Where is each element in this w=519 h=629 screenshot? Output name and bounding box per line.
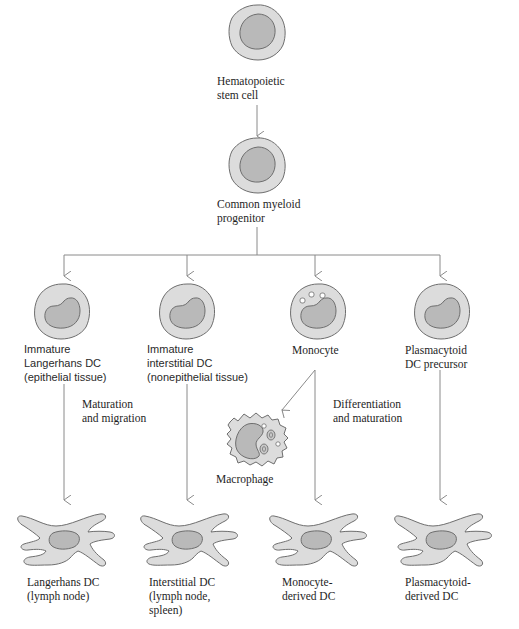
differentiation-maturation-line-2: and maturation — [333, 411, 402, 425]
monocyte-label-line-1: Monocyte — [292, 343, 339, 357]
imm-interstitial-label: Immature interstitial DC (nonepithelial … — [147, 342, 248, 384]
plasmacytoid-precursor-cell-icon — [415, 284, 470, 339]
plasmacytoid-dc-cell-icon — [395, 514, 492, 566]
plasmacytoid-dc-label-line-1: Plasmacytoid- — [405, 575, 471, 589]
arrow-monocyte-to-macrophage — [282, 370, 315, 410]
interstitial-dc-label-line-3: spleen) — [149, 603, 215, 617]
imm-interstitial-cell-icon — [160, 284, 215, 339]
imm-interstitial-label-line-2: interstitial DC — [147, 356, 248, 370]
macrophage-label: Macrophage — [216, 472, 273, 486]
hsc-label: Hematopoietic stem cell — [217, 74, 285, 102]
langerhans-dc-label-line-2: (lymph node) — [27, 589, 100, 603]
monocyte-dc-label: Monocyte- derived DC — [282, 575, 335, 603]
plasmacytoid-precursor-label-line-1: Plasmacytoid — [405, 343, 467, 357]
cmp-cell-icon — [229, 138, 285, 193]
maturation-migration-label: Maturation and migration — [82, 397, 146, 425]
cmp-label-line-1: Common myeloid — [217, 197, 300, 211]
interstitial-dc-label-line-1: Interstitial DC — [149, 575, 215, 589]
imm-interstitial-label-line-1: Immature — [147, 342, 248, 356]
imm-langerhans-label: Immature Langerhans DC (epithelial tissu… — [24, 342, 107, 384]
differentiation-maturation-line-1: Differentiation — [333, 397, 402, 411]
monocyte-dc-label-line-2: derived DC — [282, 589, 335, 603]
hsc-label-line-1: Hematopoietic — [217, 74, 285, 88]
macrophage-cell-icon — [227, 413, 288, 466]
hsc-label-line-2: stem cell — [217, 88, 285, 102]
maturation-migration-line-1: Maturation — [82, 397, 146, 411]
monocyte-label: Monocyte — [292, 343, 339, 357]
plasmacytoid-precursor-label: Plasmacytoid DC precursor — [405, 343, 467, 371]
imm-langerhans-cell-icon — [35, 284, 90, 339]
cmp-label-line-2: progenitor — [217, 211, 300, 225]
imm-langerhans-label-line-2: Langerhans DC — [24, 356, 107, 370]
imm-langerhans-label-line-1: Immature — [24, 342, 107, 356]
interstitial-dc-label-line-2: (lymph node, — [149, 589, 215, 603]
maturation-migration-line-2: and migration — [82, 411, 146, 425]
cmp-label: Common myeloid progenitor — [217, 197, 300, 225]
langerhans-dc-cell-icon — [18, 514, 115, 566]
plasmacytoid-dc-label: Plasmacytoid- derived DC — [405, 575, 471, 603]
interstitial-dc-label: Interstitial DC (lymph node, spleen) — [149, 575, 215, 617]
hsc-cell-icon — [229, 5, 285, 60]
plasmacytoid-precursor-label-line-2: DC precursor — [405, 357, 467, 371]
interstitial-dc-cell-icon — [141, 514, 238, 566]
monocyte-dc-cell-icon — [270, 514, 367, 566]
differentiation-maturation-label: Differentiation and maturation — [333, 397, 402, 425]
imm-langerhans-label-line-3: (epithelial tissue) — [24, 370, 107, 384]
monocyte-dc-label-line-1: Monocyte- — [282, 575, 335, 589]
macrophage-label-line-1: Macrophage — [216, 472, 273, 486]
imm-interstitial-label-line-3: (nonepithelial tissue) — [147, 370, 248, 384]
plasmacytoid-dc-label-line-2: derived DC — [405, 589, 471, 603]
monocyte-cell-icon — [291, 284, 346, 339]
langerhans-dc-label-line-1: Langerhans DC — [27, 575, 100, 589]
diagram-stage: Hematopoietic stem cell Common myeloid p… — [0, 0, 519, 629]
langerhans-dc-label: Langerhans DC (lymph node) — [27, 575, 100, 603]
